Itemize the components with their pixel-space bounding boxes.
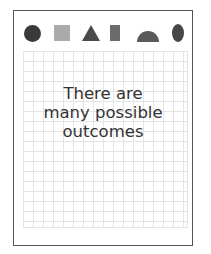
card-message: There are many possible outcomes <box>14 84 192 141</box>
semicircle-icon <box>137 31 159 42</box>
circle-icon <box>24 25 41 42</box>
square-icon <box>54 25 70 41</box>
message-line-1: There are <box>14 84 192 103</box>
message-line-2: many possible <box>14 103 192 122</box>
shape-row <box>14 11 192 51</box>
oval-icon <box>172 24 184 42</box>
rectangle-icon <box>110 25 120 41</box>
outcome-card: There are many possible outcomes <box>13 10 193 246</box>
message-line-3: outcomes <box>14 122 192 141</box>
triangle-icon <box>82 25 100 41</box>
